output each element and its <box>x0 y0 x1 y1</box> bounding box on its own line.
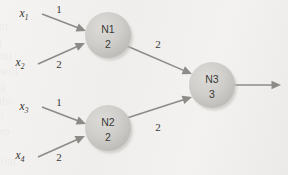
node-circle <box>85 105 131 151</box>
edge-line-x3-n2 <box>42 107 79 121</box>
edges-group <box>38 14 281 157</box>
edge-weight-label: 1 <box>56 96 62 108</box>
node-name-label: N1 <box>101 23 115 35</box>
node-threshold-label: 2 <box>105 38 111 50</box>
node-circle <box>85 12 131 58</box>
node-threshold-label: 3 <box>209 88 215 100</box>
edge-line-n2-n3 <box>127 99 185 118</box>
input-label-x2: x2 <box>15 56 25 71</box>
node-name-label: N2 <box>101 116 115 128</box>
node-circle <box>189 62 235 108</box>
input-variable-subscript: 2 <box>21 62 25 71</box>
input-label-x1: x1 <box>19 7 29 22</box>
input-variable-subscript: 4 <box>21 155 25 164</box>
input-label-x3: x3 <box>19 100 29 115</box>
node-n1[interactable]: N12 <box>85 12 133 60</box>
arrow-head-x1-n1 <box>76 24 86 32</box>
arrow-head-x3-n2 <box>76 117 86 125</box>
edge-weight-label: 2 <box>56 58 62 70</box>
edge-weight-label: 2 <box>155 121 161 133</box>
input-label-x4: x4 <box>15 149 25 164</box>
edge-line-x1-n1 <box>42 14 79 28</box>
edge-weight-label: 2 <box>56 151 62 163</box>
node-threshold-label: 2 <box>105 131 111 143</box>
input-variable-subscript: 3 <box>24 106 29 115</box>
diagram-canvas: N12N22N33 121222x1x2x3x4 <box>0 0 288 175</box>
neural-network-figure: nod to esm 101 to ntoitsilqqstqooxo (MDV… <box>0 0 288 175</box>
node-n3[interactable]: N33 <box>189 62 237 110</box>
node-n2[interactable]: N22 <box>85 105 133 153</box>
input-variable-subscript: 1 <box>25 13 29 22</box>
nodes-group: N12N22N33 <box>85 12 237 153</box>
arrow-head-n3-output <box>272 81 282 90</box>
arrow-head-n2-n3 <box>182 96 192 104</box>
edge-weight-label: 2 <box>155 38 161 50</box>
edge-weight-label: 1 <box>56 3 62 15</box>
node-name-label: N3 <box>205 73 219 85</box>
